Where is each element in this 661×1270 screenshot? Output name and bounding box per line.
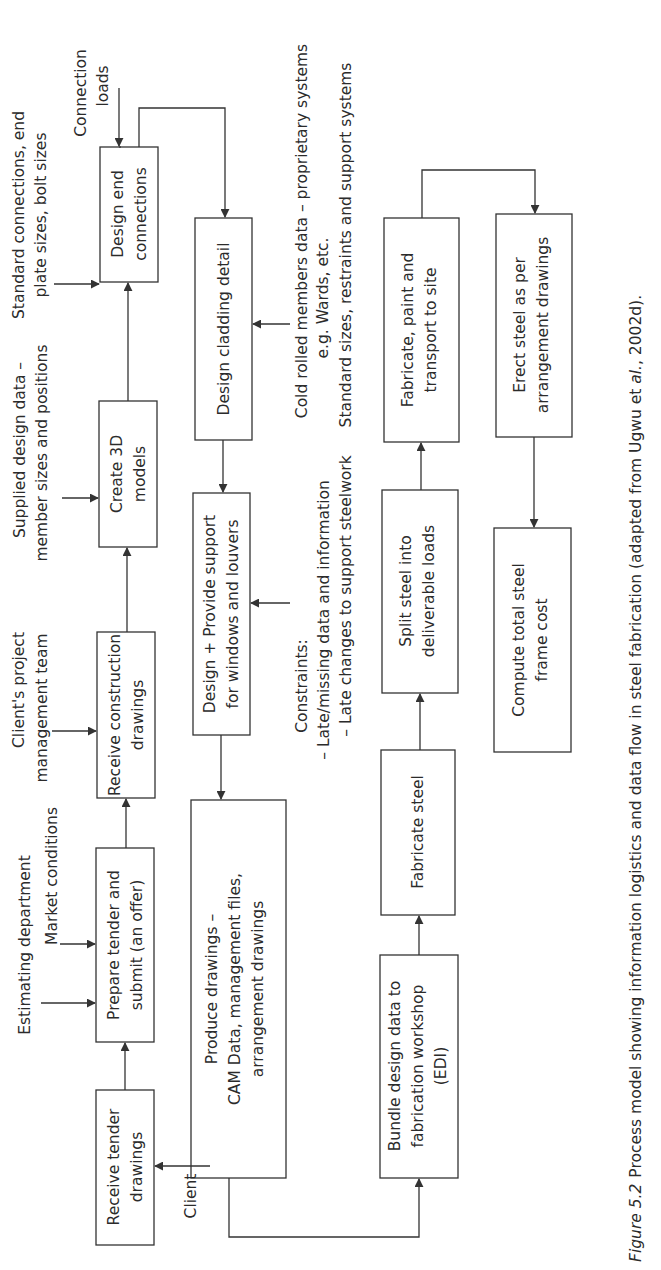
- box-design-support-line1: Design + Provide support: [201, 515, 219, 713]
- box-split-steel: Split steel into deliverable loads: [382, 490, 458, 693]
- label-conn-loads-2: loads: [94, 65, 112, 106]
- box-compute-cost-line1: Compute total steel: [510, 563, 528, 717]
- arrow-fabpaint-to-erect: [422, 170, 535, 218]
- box-create-3d-line2: models: [131, 446, 149, 502]
- box-prepare-tender-line2: submit (an offer): [128, 880, 146, 1011]
- box-design-cladding: Design cladding detail: [195, 218, 252, 440]
- label-clients-pm-2: management team: [33, 634, 51, 783]
- caption-end: , 2002d).: [627, 295, 645, 365]
- box-prepare-tender: Prepare tender and submit (an offer): [96, 848, 154, 1042]
- process-diagram: Receive tender drawings Prepare tender a…: [0, 0, 661, 1270]
- arrow-produce-to-bundle: [229, 1178, 419, 1237]
- label-cold-rolled-1: Cold rolled members data – proprietary s…: [293, 44, 311, 418]
- box-design-cladding-line1: Design cladding detail: [215, 243, 233, 416]
- box-receive-construction: Receive construction drawings: [97, 632, 155, 798]
- caption-italic: al.: [627, 365, 645, 384]
- box-erect-steel: Erect steel as per arrangement drawings: [496, 214, 572, 437]
- label-supplied-1: Supplied design data –: [11, 362, 29, 538]
- label-cold-rolled-2: e.g. Wards, etc.: [314, 238, 332, 359]
- label-constraint-2: – Late changes to support steelwork: [337, 455, 355, 736]
- label-market: Market conditions: [43, 807, 61, 945]
- box-fabricate-paint: Fabricate, paint and transport to site: [384, 218, 459, 442]
- box-design-support: Design + Provide support for windows and…: [193, 493, 250, 735]
- box-prepare-tender-line1: Prepare tender and: [105, 870, 123, 1020]
- box-receive-tender-line1: Receive tender: [105, 1108, 123, 1225]
- box-bundle-line1: Bundle design data to: [386, 981, 404, 1152]
- box-fabricate-paint-line1: Fabricate, paint and: [399, 253, 417, 408]
- box-split-steel-line2: deliverable loads: [420, 525, 438, 657]
- box-design-end-connections: Design end connections: [100, 147, 158, 282]
- box-compute-cost: Compute total steel frame cost: [494, 528, 571, 752]
- box-erect-steel-line2: arrangement drawings: [534, 237, 552, 414]
- box-produce-drawings-line1: Produce drawings –: [203, 914, 221, 1064]
- input-labels: Client Estimating department Market cond…: [10, 44, 355, 1219]
- box-fabricate-steel: Fabricate steel: [381, 750, 455, 915]
- box-receive-construction-line2: drawings: [129, 680, 147, 750]
- label-constraints-title: Constraints:: [293, 639, 311, 733]
- box-produce-drawings-line2: CAM Data, management files,: [226, 873, 244, 1105]
- box-create-3d: Create 3D models: [99, 401, 157, 547]
- figure-caption: Figure 5.2Process model showing informat…: [627, 295, 645, 1262]
- box-design-end-line2: connections: [132, 167, 150, 260]
- box-fabricate-steel-line1: Fabricate steel: [409, 775, 427, 889]
- box-bundle-line2: fabrication workshop: [409, 985, 427, 1148]
- box-receive-construction-line1: Receive construction: [106, 634, 124, 796]
- label-standard-sizes: Standard sizes, restraints and support s…: [337, 63, 355, 428]
- label-standard-conn-1: Standard connections, end: [10, 111, 28, 319]
- caption-text: Process model showing information logist…: [627, 384, 645, 1178]
- box-receive-tender-line2: drawings: [128, 1132, 146, 1202]
- box-compute-cost-line2: frame cost: [533, 598, 551, 681]
- box-receive-tender: Receive tender drawings: [96, 1090, 154, 1245]
- label-conn-loads-1: Connection: [72, 49, 90, 137]
- box-design-end-line1: Design end: [109, 170, 127, 258]
- box-split-steel-line1: Split steel into: [397, 535, 415, 646]
- box-produce-drawings: Produce drawings – CAM Data, management …: [191, 800, 286, 1178]
- label-client: Client: [182, 1174, 200, 1219]
- label-standard-conn-2: plate sizes, bolt sizes: [32, 133, 50, 298]
- box-erect-steel-line1: Erect steel as per: [511, 257, 529, 393]
- box-bundle-design: Bundle design data to fabrication worksh…: [380, 955, 458, 1178]
- label-estimating: Estimating department: [16, 855, 34, 1035]
- label-constraint-1: – Late/missing data and information: [315, 480, 333, 759]
- label-supplied-2: member sizes and positions: [33, 344, 51, 561]
- caption-label: Figure 5.2: [627, 1184, 645, 1262]
- box-fabricate-paint-line2: transport to site: [422, 267, 440, 392]
- label-clients-pm-1: Client's project: [10, 632, 28, 748]
- box-bundle-line3: (EDI): [432, 1047, 450, 1085]
- box-design-support-line2: for windows and louvers: [224, 520, 242, 709]
- box-produce-drawings-line3: arrangement drawings: [249, 901, 267, 1078]
- box-create-3d-line1: Create 3D: [108, 435, 126, 513]
